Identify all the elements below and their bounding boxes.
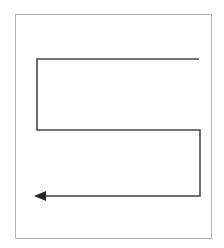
s-shaped-polyline [37,59,200,196]
figure-border-frame [16,15,212,239]
figure-canvas [0,0,224,248]
arrowhead-icon [34,191,46,201]
s-path-group [34,59,200,201]
figure-root: Serpentine S-shaped directed path line-d… [0,0,224,248]
